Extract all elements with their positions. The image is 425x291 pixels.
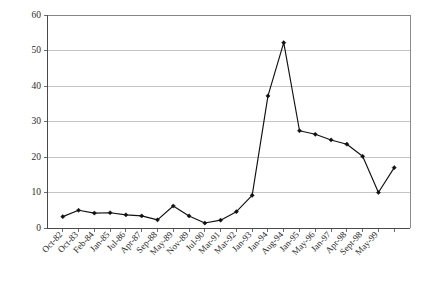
y-tick-label-20: 20 bbox=[32, 152, 42, 162]
y-tick-label-0: 0 bbox=[36, 223, 41, 233]
y-tick-labels: 0102030405060 bbox=[32, 10, 42, 233]
y-tick-label-50: 50 bbox=[32, 45, 42, 55]
y-tick-label-40: 40 bbox=[32, 81, 42, 91]
y-tick-label-10: 10 bbox=[32, 187, 42, 197]
y-tick-label-60: 60 bbox=[32, 10, 42, 20]
chart-container: 0102030405060 Oct-82Oct-83Feb-84Jan-85Ju… bbox=[0, 0, 425, 291]
line-chart: 0102030405060 Oct-82Oct-83Feb-84Jan-85Ju… bbox=[0, 0, 425, 291]
x-tick-labels: Oct-82Oct-83Feb-84Jan-85Jul-86Apr-87Sep-… bbox=[40, 229, 380, 257]
y-tick-marks bbox=[44, 15, 48, 228]
y-tick-label-30: 30 bbox=[32, 116, 42, 126]
